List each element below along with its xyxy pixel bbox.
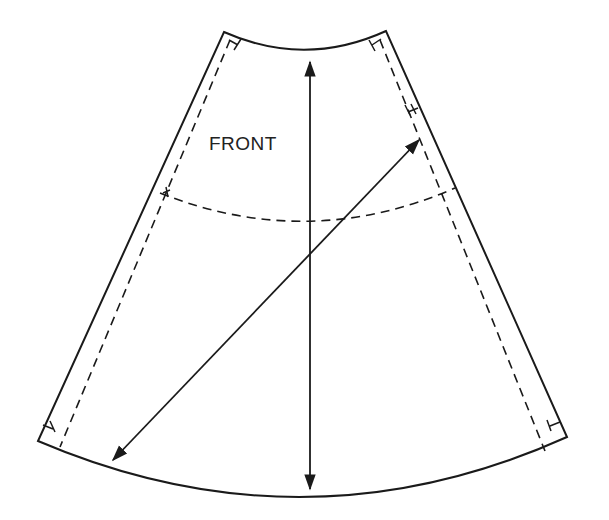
skirt-front-pattern: FRONT (0, 0, 609, 520)
piece-label: FRONT (209, 133, 277, 154)
hip-line (160, 188, 455, 221)
bias-arrow (113, 140, 419, 460)
notches (43, 39, 560, 432)
seam-allowance-right (380, 40, 545, 451)
seam-allowance-left (60, 40, 230, 447)
cutting-line (38, 31, 567, 497)
